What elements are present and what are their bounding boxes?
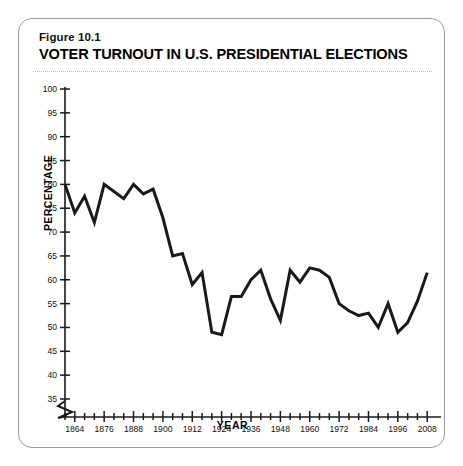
y-axis-title: PERCENTAGE [42, 123, 54, 263]
turnout-line-chart [19, 19, 446, 449]
y-tick-label: 90 [31, 132, 57, 142]
y-tick-label: 35 [31, 394, 57, 404]
tick-marks-group [60, 89, 427, 422]
y-tick-label: 70 [31, 227, 57, 237]
y-tick-label: 85 [31, 156, 57, 166]
y-tick-label: 55 [31, 299, 57, 309]
y-tick-label: 75 [31, 203, 57, 213]
y-tick-label: 60 [31, 275, 57, 285]
turnout-data-line [65, 184, 427, 334]
x-tick-label: 2008 [407, 424, 447, 434]
y-tick-label: 65 [31, 251, 57, 261]
y-tick-label: 40 [31, 370, 57, 380]
chart-plot-area: PERCENTAGE YEAR 354045505560657075808590… [19, 19, 446, 449]
figure-frame: Figure 10.1 VOTER TURNOUT IN U.S. PRESID… [18, 18, 445, 448]
y-tick-label: 80 [31, 179, 57, 189]
y-tick-label: 50 [31, 322, 57, 332]
axes-group [65, 87, 441, 417]
y-tick-label: 100 [31, 84, 57, 94]
y-tick-label: 45 [31, 346, 57, 356]
y-tick-label: 95 [31, 108, 57, 118]
